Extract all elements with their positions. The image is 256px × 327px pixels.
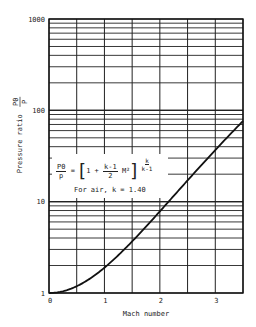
x-tick-label: 0 — [48, 297, 52, 305]
lhs-fraction: P0 p — [56, 163, 66, 180]
y-axis-label-numerator: P0 — [12, 98, 20, 106]
x-tick-label: 1 — [103, 297, 107, 305]
x-tick-label: 2 — [159, 297, 163, 305]
formula-annotation: P0 p = [1 + k-1 2 M²] k k-1 For air, k =… — [52, 154, 168, 198]
k-fraction: k-1 2 — [103, 163, 118, 180]
y-axis-label-text: Pressure ratio — [16, 114, 24, 173]
exponent-fraction: k k-1 — [142, 157, 153, 172]
y-tick-label: 100 — [32, 107, 45, 115]
x-axis-label: Mach number — [123, 310, 169, 318]
y-tick-label: 10 — [37, 198, 45, 206]
air-note: For air, k = 1.40 — [74, 186, 146, 194]
right-bracket: ] — [130, 160, 137, 181]
y-axis-label-denominator: P — [21, 100, 29, 104]
x-tick-label: 3 — [214, 297, 218, 305]
y-tick-label: 1 — [41, 290, 45, 298]
isentropic-formula: P0 p = [1 + k-1 2 M²] k k-1 — [56, 162, 152, 182]
y-axis-label: Pressure ratioP0P — [12, 97, 29, 174]
y-tick-label: 1000 — [28, 16, 45, 24]
